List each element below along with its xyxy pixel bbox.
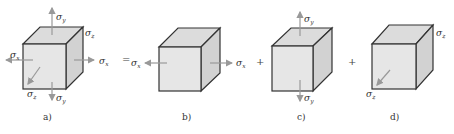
label-sigma-y-bottom: σy <box>56 93 66 105</box>
label-sigma-x-right: σx <box>236 58 246 69</box>
label-sigma-z-top: σz <box>436 28 446 39</box>
panel-b: σx σx b) <box>131 28 246 122</box>
label-sigma-y-bottom: σy <box>304 93 314 105</box>
caption-c: c) <box>297 112 306 122</box>
label-sigma-x-left: σx <box>131 58 141 69</box>
panel-d: σz σz d) <box>366 25 446 122</box>
label-sigma-y-top: σy <box>304 14 314 26</box>
panel-c: σy σy c) <box>272 12 332 122</box>
label-sigma-z-top: σz <box>85 28 95 39</box>
plus-operator-1: + <box>256 56 264 67</box>
cube-b-front-face <box>159 47 201 91</box>
stress-superposition-diagram: σy σz σx σx σz σy a) = σx σx b) + σy σy … <box>0 0 454 134</box>
caption-a: a) <box>43 112 52 122</box>
cube-c-front-face <box>272 46 313 91</box>
label-sigma-z-bottom: σz <box>366 89 376 100</box>
label-sigma-z-bottom: σz <box>27 89 37 100</box>
caption-b: b) <box>182 112 191 122</box>
plus-operator-2: + <box>348 56 356 67</box>
equals-operator: = <box>122 54 130 65</box>
panel-a: σy σz σx σx σz σy a) <box>6 8 109 122</box>
label-sigma-x-left: σx <box>10 50 20 61</box>
label-sigma-y-top: σy <box>56 12 66 24</box>
label-sigma-x-right: σx <box>99 56 109 67</box>
caption-d: d) <box>390 112 399 122</box>
